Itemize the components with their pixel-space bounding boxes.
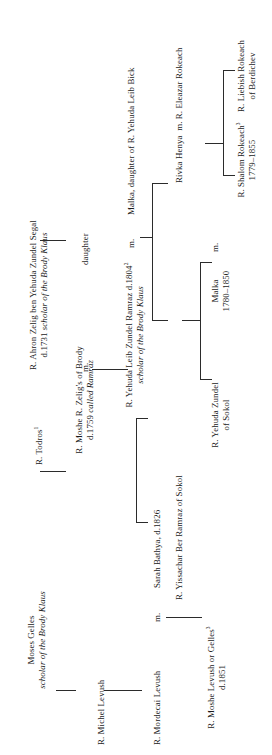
person-note: scholar of the Brody Klaus — [37, 535, 48, 745]
marriage-marker-mordecai-sarah: m. — [152, 613, 163, 622]
person-malka: Malka 1780–1850 — [210, 252, 231, 330]
connector-rokeach-children — [205, 143, 223, 144]
person-name: Moses Gelles — [26, 535, 37, 745]
footnote-ref: 3 — [205, 626, 211, 629]
person-name: R. Liebish Rokeach — [236, 12, 247, 140]
marriage-marker-malka-shalom: m. — [210, 243, 221, 252]
person-yehuda-zundel-sokol: R. Yehuda Zundel of Sokol — [210, 355, 231, 475]
marriage-marker-rivka-eleazar: m. — [174, 122, 184, 131]
connector-zelig-marriage-descent — [92, 369, 128, 370]
person-liebish-rokeach: R. Liebish Rokeach of Berdichev — [236, 12, 257, 140]
connector-ahron-daughter — [40, 240, 66, 241]
person-rivka-henya: Rivka Henya m. R. Eleazar Rokeach — [174, 47, 185, 183]
children-bracket-liebish — [223, 70, 235, 71]
children-bracket-rokeach-spine — [223, 70, 224, 176]
person-note: scholar of the Brody Klaus — [135, 215, 146, 455]
person-note: of Berdichev — [247, 12, 258, 140]
person-ahron-zelig: R. Ahron Zelig ben Yehuda Zundel Segal d… — [28, 150, 49, 440]
connector-michel-mordecai — [104, 690, 142, 691]
person-moses-gelles: Moses Gelles scholar of the Brody Klaus — [26, 535, 47, 745]
marriage-marker-zelig-daughter: m. — [80, 363, 91, 372]
person-dates: d.1851 — [217, 610, 228, 745]
person-note: of Sokol — [221, 355, 232, 475]
children-bracket-rivka — [152, 183, 168, 184]
connector-mordecai-moshe — [166, 617, 202, 618]
person-name: R. Yehuda Leib Zundel Ramraz d.18042 — [124, 215, 135, 455]
genealogy-chart: Moses Gelles scholar of the Brody Klaus … — [0, 0, 272, 755]
sibling-bracket-sarah-bottom — [136, 522, 148, 523]
person-note: d.1759 called Ramraz — [85, 300, 96, 500]
connector-yissachar-children — [182, 320, 200, 321]
person-yehuda-leib-zundel: R. Yehuda Leib Zundel Ramraz d.18042 sch… — [124, 215, 145, 455]
person-mordecai-levush: R. Mordecai Levush — [152, 671, 163, 745]
person-name: Rivka Henya m. R. Eleazar Rokeach — [174, 47, 185, 183]
connector-todros-moshe-zelig — [40, 471, 66, 472]
children-bracket-yissachar — [152, 320, 168, 321]
person-moshe-levush-or-gelles: R. Moshe Levush or Gelles3 d.1851 — [206, 610, 227, 745]
children-bracket-yissachar-spine — [200, 262, 201, 380]
person-moshe-r-zeligs: R. Moshe R. Zelig's of Brody d.1759 call… — [74, 300, 95, 500]
person-name: Sarah Bathya, d.1826 — [152, 510, 163, 588]
children-bracket-spine — [152, 183, 153, 321]
person-name: R. Yehuda Zundel — [210, 355, 221, 475]
person-name: Malka — [210, 252, 221, 330]
person-daughter: daughter — [80, 233, 91, 265]
person-name: R. Moshe Levush or Gelles3 — [206, 610, 217, 745]
person-name: R. Yissachar Ber Ramraz of Sokol — [174, 475, 185, 600]
person-name: R. Mordecai Levush — [152, 671, 163, 745]
person-yissachar-ber: R. Yissachar Ber Ramraz of Sokol — [174, 475, 185, 600]
person-name: Malka, daughter of R. Yehuda Leib Bick — [126, 67, 137, 215]
person-sarah-bathya: Sarah Bathya, d.1826 — [152, 510, 163, 588]
connector-gelles-michel — [56, 690, 76, 691]
person-malka-bick: Malka, daughter of R. Yehuda Leib Bick — [126, 67, 137, 215]
person-name: R. Ahron Zelig ben Yehuda Zundel Segal — [28, 150, 39, 440]
person-name: R. Moshe R. Zelig's of Brody — [74, 300, 85, 500]
person-name: daughter — [80, 233, 91, 265]
person-note: d.1731 scholar of the Brody Klaus — [39, 150, 50, 440]
footnote-ref: 2 — [123, 263, 129, 266]
marriage-marker-yehudaleib-malka: m. — [126, 239, 137, 248]
children-bracket-shalom — [223, 175, 235, 176]
person-dates: 1780–1850 — [221, 252, 232, 330]
